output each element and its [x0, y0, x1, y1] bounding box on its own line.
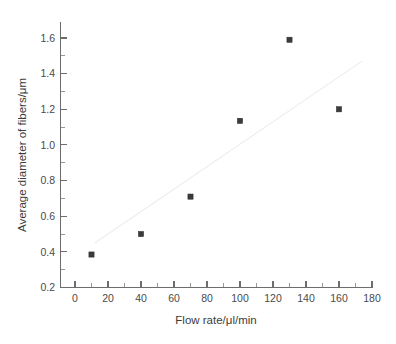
x-tick-label: 160 — [330, 292, 348, 304]
x-tick-label: 120 — [264, 292, 282, 304]
data-point-marker — [188, 194, 193, 199]
chart-container: 0.20.40.60.81.01.21.41.6 020406080100120… — [0, 0, 396, 344]
y-axis-title: Average diameter of fibers/μm — [16, 78, 28, 232]
x-tick-label: 40 — [135, 292, 147, 304]
x-tick-label: 180 — [363, 292, 381, 304]
x-tick-label: 60 — [168, 292, 180, 304]
x-tick-label: 80 — [201, 292, 213, 304]
y-tick-label: 0.6 — [40, 210, 55, 222]
data-point-marker — [237, 118, 242, 123]
data-point-marker — [287, 37, 292, 42]
y-tick-label: 0.2 — [40, 281, 55, 293]
scatter-plot: 0.20.40.60.81.01.21.41.6 020406080100120… — [0, 0, 396, 344]
x-tick-label: 20 — [102, 292, 114, 304]
y-tick-label: 0.8 — [40, 174, 55, 186]
x-tick-label: 0 — [72, 292, 78, 304]
y-tick-label: 1.6 — [40, 32, 55, 44]
data-point-marker — [138, 231, 143, 236]
y-tick-label: 0.4 — [40, 246, 55, 258]
data-point-marker — [336, 107, 341, 112]
y-tick-label: 1.0 — [40, 139, 55, 151]
y-tick-label: 1.4 — [40, 67, 55, 79]
data-point-marker — [89, 252, 94, 257]
x-tick-label: 100 — [231, 292, 249, 304]
x-tick-label: 140 — [297, 292, 315, 304]
y-tick-label: 1.2 — [40, 103, 55, 115]
x-axis-title: Flow rate/μl/min — [175, 314, 256, 326]
